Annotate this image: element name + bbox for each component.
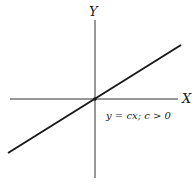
origin-point [93, 97, 97, 101]
coordinate-plane [0, 0, 195, 190]
y-axis-label: Y [89, 4, 98, 19]
x-axis-label: X [182, 91, 191, 106]
equation-label: y = cx; c > 0 [106, 110, 171, 121]
